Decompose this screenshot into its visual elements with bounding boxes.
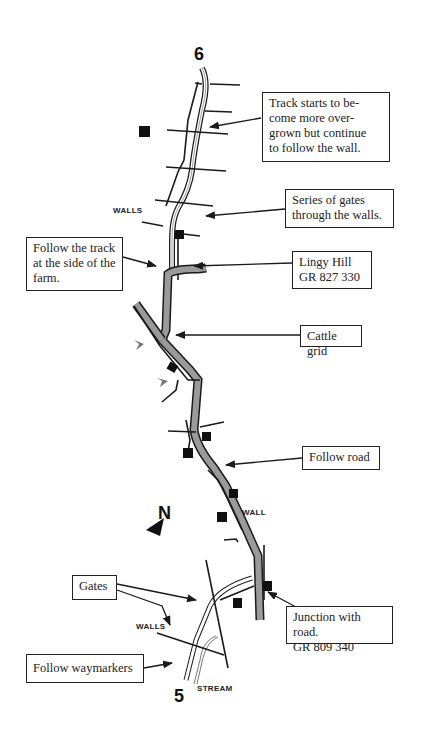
callout-line: GR 809 340 [293,640,386,655]
callout-waymarkers: Follow waymarkers [26,654,144,683]
callout-line: Lingy Hill [299,255,365,270]
callout-line: Follow the track [33,241,116,256]
callout-follow-road: Follow road [302,446,380,470]
callout-line: Follow road [309,450,373,465]
callout-lingy-hill: Lingy Hill GR 827 330 [292,251,372,289]
callout-gates: Gates [72,575,117,600]
waypoint-6: 6 [194,44,204,65]
callout-line: come more over- [269,111,383,126]
callout-line: Gates [79,579,110,594]
callout-junction: Junction with road. GR 809 340 [286,606,393,644]
waypoint-5: 5 [174,686,184,707]
callout-line: GR 827 330 [299,270,365,285]
callout-line: Track starts to be- [269,96,383,111]
callout-cattle-grid: Cattle grid [300,325,362,347]
callout-line: Cattle grid [307,329,355,359]
walls-label-top: WALLS [113,206,143,215]
stream-label: STREAM [197,684,233,693]
callout-overgrown: Track starts to be- come more over- grow… [262,92,390,162]
callout-line: through the walls. [292,208,387,223]
callout-line: grown but continue [269,126,383,141]
main-road [136,268,260,620]
wall-label: WALL [242,508,266,517]
callout-line: Junction with road. [293,610,386,640]
callout-line: at the side of the [33,256,116,271]
callout-line: Follow waymarkers [33,658,137,676]
callout-line: Series of gates [292,193,387,208]
callout-farm-track: Follow the track at the side of the farm… [26,237,123,291]
callout-line: farm. [33,271,116,286]
callout-series-of-gates: Series of gates through the walls. [285,189,394,228]
walls-label-bottom: WALLS [136,622,166,631]
callout-line: to follow the wall. [269,141,383,156]
callout-arrows [117,118,302,668]
north-label: N [158,503,171,524]
